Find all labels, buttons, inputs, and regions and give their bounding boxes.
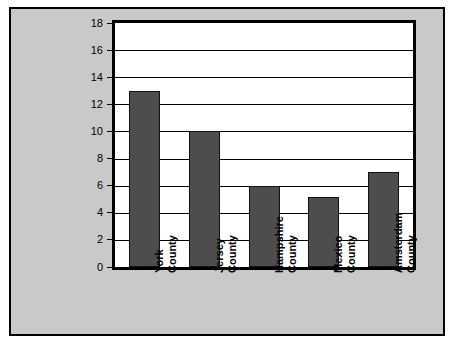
x-axis-label: JerseyCounty [212, 211, 240, 273]
y-axis-ticks: 024681012141618 [81, 20, 112, 270]
x-axis-labels: YorkCountyJerseyCountyHampshireCountyMex… [112, 273, 416, 335]
y-axis-tick-label: 2 [97, 234, 107, 245]
x-axis-label-line: County [166, 235, 179, 273]
y-axis-tick-label: 16 [91, 45, 107, 56]
x-axis-label: HampshireCounty [272, 211, 300, 273]
y-axis-tick-label: 6 [97, 180, 107, 191]
y-axis-tick-label: 18 [91, 18, 107, 29]
x-axis-label-line: Amsterdam [392, 212, 405, 273]
x-axis-label-line: Jersey [213, 238, 226, 273]
gridline [115, 77, 413, 78]
y-axis-tick-label: 4 [97, 207, 107, 218]
x-axis-label-line: Hampshire [273, 216, 286, 273]
x-axis-label-line: County [226, 235, 239, 273]
y-axis-tick-label: 12 [91, 99, 107, 110]
y-axis-tick-label: 10 [91, 126, 107, 137]
x-axis-label: YorkCounty [152, 211, 180, 273]
x-axis-label-line: Mexico [332, 236, 345, 273]
x-axis-label: MexicoCounty [331, 211, 359, 273]
x-axis-label-line: York [153, 249, 166, 273]
gridline [115, 50, 413, 51]
y-axis-tick-label: 0 [97, 262, 107, 273]
y-axis-tick-label: 14 [91, 72, 107, 83]
x-axis-label: AmsterdamCounty [391, 211, 419, 273]
x-axis-label-line: County [345, 235, 358, 273]
y-axis-tick-label: 8 [97, 153, 107, 164]
x-axis-label-line: County [286, 235, 299, 273]
chart-figure: Number of Brokers 024681012141618 YorkCo… [9, 7, 445, 336]
y-axis-title: Number of Brokers [49, 0, 67, 38]
x-axis-label-line: County [405, 235, 418, 273]
